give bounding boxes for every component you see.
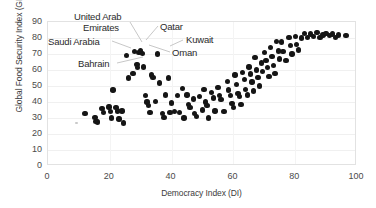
data-point-faint (75, 122, 78, 125)
data-point (161, 115, 166, 120)
data-point (155, 51, 160, 56)
data-point (157, 80, 162, 85)
data-point (279, 39, 284, 44)
data-point (226, 87, 231, 92)
data-point (254, 67, 259, 72)
data-point (293, 34, 298, 39)
data-point (147, 110, 152, 115)
y-tick-20: 20 (20, 129, 42, 138)
data-point (163, 92, 168, 97)
data-point (232, 72, 237, 77)
data-point (272, 71, 277, 76)
data-point (169, 100, 174, 105)
data-point (257, 83, 262, 88)
data-point (181, 115, 186, 120)
data-point (141, 64, 146, 69)
vgridline-60 (233, 22, 234, 164)
data-point (271, 63, 276, 68)
data-point (109, 115, 114, 120)
y-tick-10: 10 (20, 145, 42, 154)
data-point (246, 64, 251, 69)
data-point (204, 103, 209, 108)
data-point (110, 87, 115, 92)
y-tick-0: 0 (20, 161, 42, 170)
data-point (201, 87, 206, 92)
data-point (248, 71, 253, 76)
data-point (184, 92, 189, 97)
data-point (124, 53, 129, 58)
annotation-saudi-arabia: Saudi Arabia (48, 36, 99, 47)
vgridline-20 (110, 22, 111, 164)
annotation-qatar: Qatar (160, 21, 183, 32)
data-point (191, 96, 196, 101)
data-point (283, 58, 288, 63)
annotation-oman: Oman (172, 47, 197, 58)
y-tick-30: 30 (20, 113, 42, 122)
x-tick-40: 40 (154, 172, 188, 181)
data-point (231, 105, 236, 110)
data-point (268, 45, 273, 50)
data-point (251, 88, 256, 93)
data-point (108, 109, 113, 114)
data-point (249, 79, 254, 84)
data-point (286, 35, 291, 40)
data-point (289, 51, 294, 56)
data-point (242, 77, 247, 82)
x-tick-100: 100 (339, 172, 373, 181)
gridline-20 (48, 134, 355, 135)
annotation-kuwait: Kuwait (186, 34, 213, 45)
data-point (130, 71, 135, 76)
data-point (266, 74, 271, 79)
scatter-chart: Global Food Security Index (GFSI) 90 80 … (0, 0, 376, 208)
data-point (153, 99, 158, 104)
data-point (243, 87, 248, 92)
data-point (180, 86, 185, 91)
data-point (252, 55, 257, 60)
gridline-40 (48, 102, 355, 103)
data-point (177, 110, 182, 115)
data-point (294, 42, 299, 47)
y-tick-80: 80 (20, 33, 42, 42)
y-tick-70: 70 (20, 49, 42, 58)
data-point (245, 92, 250, 97)
data-point (336, 32, 341, 37)
data-point (263, 58, 268, 63)
data-point (240, 70, 245, 75)
gridline-10 (48, 150, 355, 151)
annotation-bahrain: Bahrain (78, 58, 109, 69)
data-point (221, 109, 226, 114)
data-point (126, 75, 131, 80)
data-point (255, 75, 260, 80)
data-point (140, 51, 145, 56)
data-point (150, 75, 155, 80)
x-tick-0: 0 (30, 172, 64, 181)
data-point (296, 47, 301, 52)
gridline-60 (48, 70, 355, 71)
y-tick-40: 40 (20, 97, 42, 106)
data-point (82, 111, 87, 116)
data-point (277, 56, 282, 61)
data-point (269, 54, 274, 59)
data-point (166, 75, 171, 80)
data-point (121, 120, 126, 125)
x-tick-20: 20 (92, 172, 126, 181)
x-tick-80: 80 (277, 172, 311, 181)
data-point (200, 107, 205, 112)
data-point (211, 95, 216, 100)
data-point (288, 43, 293, 48)
data-point (215, 85, 220, 90)
data-point (119, 108, 124, 113)
gridline-70 (48, 54, 355, 55)
x-tick-60: 60 (215, 172, 249, 181)
data-point (225, 79, 230, 84)
y-tick-90: 90 (20, 17, 42, 26)
data-point (228, 93, 233, 98)
x-axis-title: Democracy Index (DI) (47, 188, 356, 198)
data-point (238, 102, 243, 107)
data-point (280, 49, 285, 54)
data-point (262, 50, 267, 55)
annotation-united-arab-emirates-line2: Emirates (83, 22, 119, 33)
data-point (187, 105, 192, 110)
data-point (209, 90, 214, 95)
data-point (197, 94, 202, 99)
